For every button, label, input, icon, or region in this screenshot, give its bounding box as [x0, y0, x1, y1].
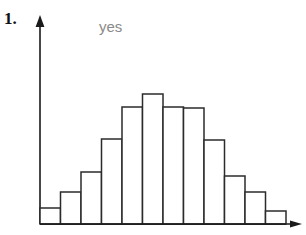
histogram-svg — [0, 0, 306, 235]
histogram-bar — [204, 140, 225, 224]
histogram-bar — [163, 107, 184, 224]
histogram-bar — [40, 208, 61, 224]
histogram-bars-group — [40, 94, 286, 224]
histogram-bar — [143, 94, 164, 224]
histogram-bar — [122, 107, 143, 224]
histogram-bar — [61, 192, 82, 224]
histogram-figure — [0, 0, 306, 235]
histogram-bar — [266, 211, 287, 224]
worksheet-page: 1. yes — [0, 0, 306, 235]
up-arrow-icon — [36, 15, 45, 27]
histogram-bar — [225, 176, 246, 224]
histogram-bar — [102, 139, 123, 224]
right-arrow-icon — [290, 220, 302, 227]
histogram-bar — [184, 108, 205, 224]
histogram-bar — [245, 192, 266, 224]
histogram-bar — [81, 172, 102, 224]
